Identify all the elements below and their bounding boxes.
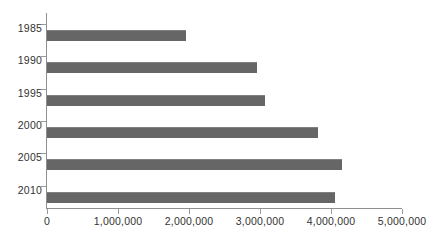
bar-2005[interactable] xyxy=(47,159,342,170)
bar-1995[interactable] xyxy=(47,95,265,106)
x-tick-1000000 xyxy=(118,209,119,214)
x-tick-4000000 xyxy=(331,209,332,214)
x-axis-line xyxy=(46,208,402,209)
x-tick-0 xyxy=(47,209,48,214)
bar-2000[interactable] xyxy=(47,127,318,138)
x-tick-5000000 xyxy=(402,209,403,214)
x-tick-2000000 xyxy=(189,209,190,214)
y-axis-label-1995: 1995 xyxy=(2,87,42,99)
x-axis-label-4000000: 4,000,000 xyxy=(307,215,356,227)
x-axis-label-5000000: 5,000,000 xyxy=(378,215,427,227)
bar-1985[interactable] xyxy=(47,30,186,41)
x-axis-label-1000000: 1,000,000 xyxy=(94,215,143,227)
y-axis-label-2010: 2010 xyxy=(2,184,42,196)
bar-1990[interactable] xyxy=(47,62,257,73)
plot-area xyxy=(47,14,402,208)
bar-chart: 198519901995200020052010 01,000,0002,000… xyxy=(0,0,438,237)
y-axis-labels: 198519901995200020052010 xyxy=(0,0,42,237)
bar-2010[interactable] xyxy=(47,192,335,203)
x-axis-label-0: 0 xyxy=(44,215,50,227)
y-axis-label-1985: 1985 xyxy=(2,22,42,34)
x-axis-label-3000000: 3,000,000 xyxy=(236,215,285,227)
x-tick-3000000 xyxy=(260,209,261,214)
y-axis-label-2005: 2005 xyxy=(2,151,42,163)
x-axis-label-2000000: 2,000,000 xyxy=(165,215,214,227)
y-axis-label-2000: 2000 xyxy=(2,119,42,131)
y-axis-label-1990: 1990 xyxy=(2,54,42,66)
